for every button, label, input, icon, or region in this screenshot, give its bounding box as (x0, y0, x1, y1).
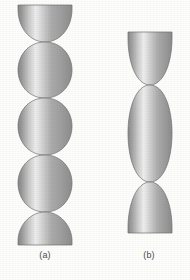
panel-b-shape (128, 32, 172, 233)
figure-container: (a) (b) (0, 0, 190, 280)
lobed-shapes-diagram (0, 0, 190, 280)
panel-a-lobe-4 (18, 155, 72, 212)
panel-b-lobe-2 (128, 85, 172, 182)
panel-a-caption: (a) (24, 250, 66, 260)
panel-b-lobe-3 (128, 182, 172, 233)
panel-a-lobe-1 (18, 5, 72, 42)
panel-a-lobe-5 (18, 212, 72, 245)
panel-a-lobe-2 (18, 42, 72, 98)
panel-a-lobe-3 (18, 98, 72, 155)
panel-b-lobe-1 (128, 32, 172, 85)
panel-a-shape (18, 5, 72, 245)
panel-b-caption: (b) (128, 250, 170, 260)
